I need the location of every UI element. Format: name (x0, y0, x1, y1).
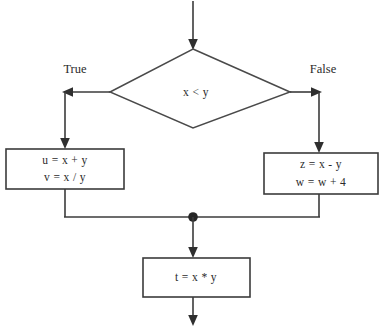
decision-condition-text: x < y (183, 86, 209, 99)
final-process-node[interactable]: t = x * y (143, 258, 250, 297)
true-edge-down-arrow-head (60, 138, 70, 149)
true-process-line2: v = x / y (44, 171, 86, 184)
true-branch-edge (60, 87, 110, 149)
false-branch-label: False (310, 62, 337, 76)
false-branch-edge (290, 87, 324, 153)
flowchart-canvas: x < y True False u = x + y v = x / y (0, 0, 385, 328)
false-process-line2: w = w + 4 (296, 176, 346, 188)
final-entry-arrow-head (188, 247, 198, 258)
false-edge-arrow-head (311, 87, 322, 97)
exit-arrow (188, 297, 198, 326)
exit-arrow-head (188, 315, 198, 326)
true-process-node[interactable]: u = x + y v = x / y (6, 149, 124, 189)
final-entry-edge (188, 217, 198, 258)
entry-arrow (188, 1, 198, 50)
false-edge-down-arrow-head (314, 142, 324, 153)
final-process-line1: t = x * y (175, 271, 217, 284)
false-process-line1: z = x - y (300, 158, 342, 171)
true-branch-label: True (63, 62, 87, 76)
false-process-node[interactable]: z = x - y w = w + 4 (264, 153, 378, 194)
true-process-line1: u = x + y (42, 154, 87, 167)
true-edge-arrow-head (62, 87, 73, 97)
decision-node[interactable]: x < y (110, 49, 290, 128)
flowchart-svg: x < y True False u = x + y v = x / y (0, 0, 385, 328)
